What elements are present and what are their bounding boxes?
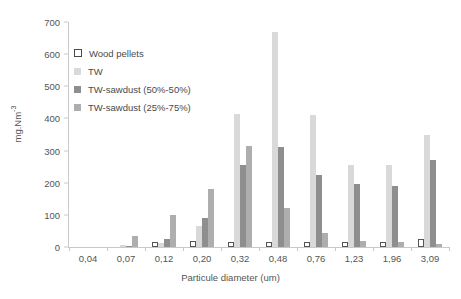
legend-swatch-icon: [74, 86, 81, 93]
legend-swatch-icon: [74, 68, 81, 75]
bar: [284, 208, 290, 247]
x-axis: 0,040,070,120,200,320,480,761,231,963,09: [69, 247, 449, 269]
y-axis-title-base: mg.Nm: [12, 112, 23, 143]
x-tick-label: 0,12: [155, 253, 174, 264]
legend-label: TW-sawdust (25%-75%): [88, 102, 191, 113]
bar-group: [297, 22, 335, 247]
x-tick-label: 3,09: [421, 253, 440, 264]
x-tick-label: 1,96: [383, 253, 402, 264]
x-tick-mark: [449, 247, 450, 251]
legend-item[interactable]: TW-sawdust (50%-50%): [74, 80, 284, 98]
legend-item[interactable]: Wood pellets: [74, 44, 284, 62]
y-axis-title: mg.Nm-3: [10, 106, 22, 143]
bar: [354, 184, 360, 247]
legend-label: TW: [88, 66, 103, 77]
y-tick-label: 0: [55, 242, 60, 253]
y-tick-label: 400: [44, 113, 60, 124]
x-tick-mark: [69, 247, 70, 251]
y-tick-label: 500: [44, 81, 60, 92]
bar: [322, 233, 328, 247]
y-tick-label: 200: [44, 177, 60, 188]
y-tick-label: 600: [44, 49, 60, 60]
x-tick-label: 1,23: [345, 253, 364, 264]
bar: [430, 160, 436, 247]
bar: [132, 236, 138, 247]
x-tick-mark: [259, 247, 260, 251]
legend-label: Wood pellets: [89, 48, 144, 59]
x-tick-label: 0,07: [117, 253, 136, 264]
legend-swatch-icon: [74, 104, 81, 111]
x-axis-title: Particule diameter (um): [0, 272, 461, 283]
bar-group: [411, 22, 449, 247]
bar-chart: 0100200300400500600700 mg.Nm-3 0,040,070…: [0, 0, 461, 299]
bar: [208, 189, 214, 247]
x-tick-label: 0,32: [231, 253, 250, 264]
bar: [246, 146, 252, 247]
bar-group: [373, 22, 411, 247]
y-tick-label: 700: [44, 17, 60, 28]
legend-item[interactable]: TW: [74, 62, 284, 80]
y-tick-label: 300: [44, 145, 60, 156]
x-tick-mark: [145, 247, 146, 251]
x-tick-mark: [183, 247, 184, 251]
legend-item[interactable]: TW-sawdust (25%-75%): [74, 98, 284, 116]
bar-group: [335, 22, 373, 247]
y-tick-label: 100: [44, 209, 60, 220]
y-axis-title-exponent: -3: [10, 106, 17, 112]
legend: Wood pelletsTWTW-sawdust (50%-50%)TW-saw…: [74, 44, 284, 116]
legend-swatch-icon: [74, 49, 82, 57]
bar: [392, 186, 398, 247]
x-tick-mark: [297, 247, 298, 251]
x-tick-mark: [107, 247, 108, 251]
x-tick-mark: [221, 247, 222, 251]
x-tick-mark: [411, 247, 412, 251]
x-tick-mark: [335, 247, 336, 251]
legend-label: TW-sawdust (50%-50%): [88, 84, 191, 95]
x-tick-label: 0,20: [193, 253, 212, 264]
x-tick-mark: [373, 247, 374, 251]
x-tick-label: 0,48: [269, 253, 288, 264]
x-tick-label: 0,04: [79, 253, 98, 264]
bar: [170, 215, 176, 247]
x-tick-label: 0,76: [307, 253, 326, 264]
